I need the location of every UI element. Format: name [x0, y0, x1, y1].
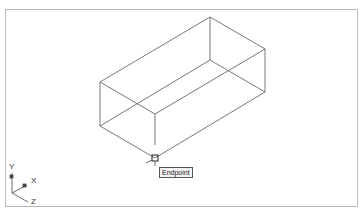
drawing-viewport[interactable]: svg polygon{display:none} Y X Z Endpoint	[0, 0, 363, 215]
ucs-z-label: Z	[31, 197, 36, 206]
ucs-y-label: Y	[9, 162, 14, 171]
ucs-icon	[10, 173, 28, 202]
ucs-x-label: X	[31, 176, 36, 185]
endpoint-marker-icon	[146, 155, 158, 166]
snap-tooltip: Endpoint	[159, 167, 193, 178]
wireframe-box[interactable]: svg polygon{display:none}	[0, 0, 363, 215]
